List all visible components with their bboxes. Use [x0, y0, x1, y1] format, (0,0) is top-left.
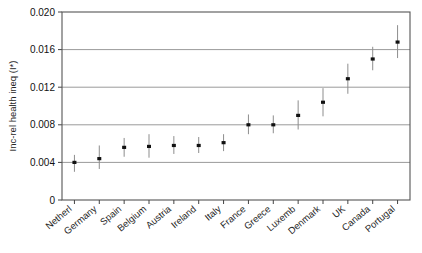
- x-tick-label-ireland: Ireland: [169, 203, 198, 230]
- data-point-spain: [122, 146, 126, 149]
- chart-container: 00.0040.0080.0120.0160.020NetherlGermany…: [0, 0, 422, 253]
- data-point-ireland: [197, 144, 201, 147]
- data-point-portugal: [396, 40, 400, 43]
- data-point-belgium: [147, 145, 151, 148]
- x-tick-label-uk: UK: [330, 203, 348, 220]
- data-point-luxemb: [296, 114, 300, 117]
- data-point-canada: [371, 57, 375, 60]
- data-point-austria: [172, 144, 176, 147]
- y-tick-label: 0.004: [30, 157, 55, 168]
- data-point-germany: [97, 157, 101, 160]
- y-tick-label: 0.008: [30, 119, 55, 130]
- plot-frame: [62, 12, 410, 200]
- data-point-denmark: [321, 101, 325, 104]
- data-point-france: [246, 123, 250, 126]
- y-tick-label: 0.016: [30, 44, 55, 55]
- data-point-greece: [271, 123, 275, 126]
- data-point-netherl: [72, 161, 76, 164]
- income-related-health-inequality-chart: 00.0040.0080.0120.0160.020NetherlGermany…: [0, 0, 422, 253]
- data-point-uk: [346, 77, 350, 80]
- y-axis-label: Inc-rel health ineq (I*): [7, 61, 18, 152]
- y-tick-label: 0: [49, 195, 55, 206]
- x-tick-label-austria: Austria: [143, 203, 173, 231]
- data-point-italy: [222, 141, 226, 144]
- y-tick-label: 0.012: [30, 82, 55, 93]
- y-tick-label: 0.020: [30, 7, 55, 18]
